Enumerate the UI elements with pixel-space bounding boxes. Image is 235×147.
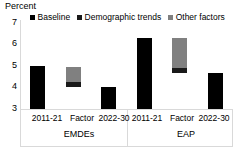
bar-emdes-2011-21 bbox=[30, 66, 45, 109]
bar-emdes-2022-30 bbox=[101, 87, 116, 109]
x-tick-eap-2011-21: 2011-21 bbox=[132, 113, 163, 123]
growth-decomposition-chart: Percent Baseline Demographic trends Othe… bbox=[0, 0, 235, 147]
x-axis-label-band: 2011-21 Factor 2022-30 2011-21 Factor 20… bbox=[20, 109, 233, 147]
x-tick-eap-2022-30: 2022-30 bbox=[198, 113, 229, 123]
plot-area bbox=[20, 20, 233, 109]
bar-segment-baseline bbox=[208, 73, 223, 109]
bar-eap-factor bbox=[172, 38, 187, 74]
group-label-emdes: EMDEs bbox=[64, 129, 95, 140]
x-tick-emdes-2022-30: 2022-30 bbox=[98, 113, 129, 123]
y-tick-7: 7 bbox=[12, 18, 17, 27]
bar-segment-baseline bbox=[101, 87, 116, 109]
y-axis-ticks: 7 6 5 4 3 bbox=[0, 0, 20, 147]
bar-segment-other-factors bbox=[66, 67, 81, 83]
group-label-eap: EAP bbox=[177, 129, 195, 140]
bar-eap-2011-21 bbox=[137, 38, 152, 109]
bar-segment-baseline bbox=[137, 38, 152, 109]
bar-segment-other-factors bbox=[172, 38, 187, 68]
bar-eap-2022-30 bbox=[208, 73, 223, 109]
x-tick-emdes-factor: Factor bbox=[70, 113, 94, 123]
bar-segment-baseline bbox=[30, 66, 45, 109]
x-tick-eap-factor: Factor bbox=[170, 113, 194, 123]
bar-emdes-factor bbox=[66, 67, 81, 87]
y-tick-6: 6 bbox=[12, 39, 17, 48]
bar-segment-demographic-trends bbox=[66, 82, 81, 86]
bar-segment-demographic-trends bbox=[172, 68, 187, 74]
y-tick-4: 4 bbox=[12, 82, 17, 91]
y-tick-3: 3 bbox=[12, 104, 17, 113]
y-tick-5: 5 bbox=[12, 61, 17, 70]
x-tick-emdes-2011-21: 2011-21 bbox=[32, 113, 63, 123]
